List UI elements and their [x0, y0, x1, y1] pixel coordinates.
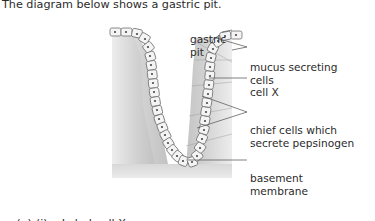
gastric-pit-diagram	[0, 16, 375, 188]
label-basement-membrane: basement membrane	[250, 172, 308, 197]
label-mucus-secreting-cells: mucus secreting cells	[250, 61, 338, 86]
label-gastric-pit: gastric pit	[190, 33, 226, 58]
label-chief-cells: chief cells which secrete pepsinogen	[250, 124, 354, 149]
worksheet-page: The diagram below shows a gastric pit.	[0, 0, 375, 221]
gastric-pit-figure: gastric pit mucus secreting cells cell X…	[0, 16, 375, 188]
label-cell-x: cell X	[250, 86, 279, 99]
question-part-letter: (a)	[16, 217, 32, 221]
sub-mucosa-base	[112, 164, 232, 178]
intro-text: The diagram below shows a gastric pit.	[2, 0, 222, 12]
question-text: Label cell X	[62, 217, 126, 221]
question-a-i: (a)(i)Label cell X	[2, 203, 126, 221]
question-part-roman: (i)	[36, 217, 48, 221]
leader-mucus-b	[232, 47, 247, 50]
